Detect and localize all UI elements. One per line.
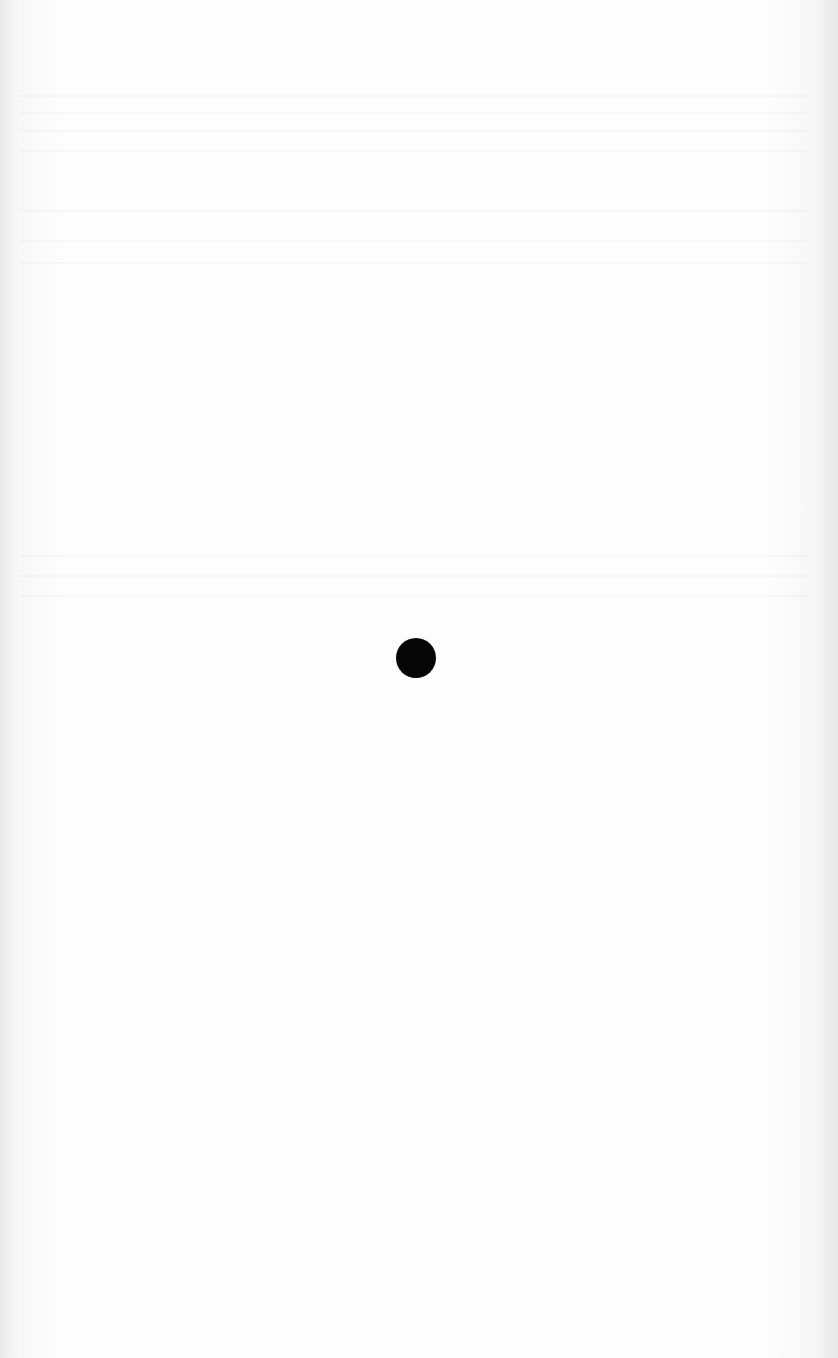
show-through-line: [20, 240, 808, 242]
show-through-line: [20, 595, 808, 597]
show-through-line: [20, 112, 808, 114]
black-dot-mark: [396, 638, 436, 678]
show-through-line: [20, 210, 808, 212]
show-through-line: [20, 575, 808, 577]
show-through-line: [20, 150, 808, 152]
scanned-page: [0, 0, 838, 1358]
show-through-line: [20, 262, 808, 264]
show-through-line: [20, 130, 808, 132]
show-through-line: [20, 95, 808, 97]
show-through-line: [20, 555, 808, 557]
